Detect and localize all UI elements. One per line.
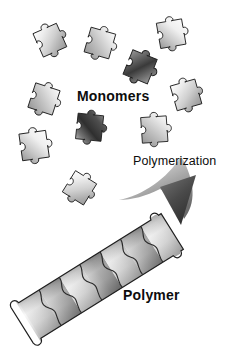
monomer-piece [83,23,121,64]
monomers-label: Monomers [77,89,149,103]
polymerization-diagram: Monomers Polymerization Polymer [0,0,230,346]
monomer-piece [26,79,65,121]
monomer-piece [31,18,72,62]
polymer-label: Polymer [123,288,180,302]
chain-body [9,209,188,346]
monomer-piece [155,14,191,53]
monomer-piece [60,167,103,211]
monomer-piece [169,74,207,115]
polymerization-label: Polymerization [133,155,216,168]
polymer-chain [9,209,188,346]
monomer-piece [75,109,109,146]
diagram-canvas [0,0,230,346]
monomer-piece [121,46,163,90]
monomer-piece [18,125,54,165]
monomer-piece [140,111,172,147]
